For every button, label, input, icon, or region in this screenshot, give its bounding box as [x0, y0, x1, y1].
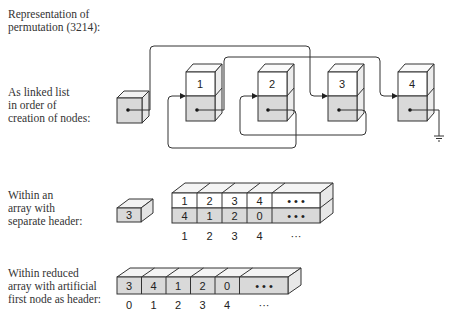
reduced-value-2: 1 — [175, 280, 181, 292]
pointer-1-to-4 — [197, 57, 397, 110]
array-link-1: 4 — [181, 210, 187, 222]
node-3 — [328, 64, 364, 121]
array-index-3: 3 — [231, 230, 237, 242]
reduced-value-0: 3 — [126, 280, 132, 292]
pointer-header-to-3 — [128, 46, 327, 110]
array-index-more: ··· — [291, 230, 302, 242]
separate-header-box — [117, 199, 153, 222]
reduced-index-3: 3 — [199, 299, 205, 311]
node-4-label: 4 — [409, 78, 415, 90]
linked-list — [117, 46, 444, 148]
array-index-4: 4 — [256, 230, 262, 242]
reduced-index-0: 0 — [126, 299, 132, 311]
node-2 — [258, 64, 294, 121]
node-1-label: 1 — [197, 78, 203, 90]
node-3-label: 3 — [339, 78, 345, 90]
node-2-label: 2 — [269, 78, 275, 90]
array-link-2: 1 — [206, 210, 212, 222]
reduced-value-3: 2 — [199, 280, 205, 292]
diagram-canvas: 1 2 3 4 3 1 2 3 4 • • • 4 1 2 0 • • • 1 … — [0, 0, 459, 326]
reduced-index-1: 1 — [150, 299, 156, 311]
node-4 — [398, 64, 434, 121]
array-link-more: • • • — [287, 210, 305, 222]
array-value-more: • • • — [287, 195, 305, 207]
array-reduced — [117, 268, 301, 294]
array-value-1: 1 — [181, 195, 187, 207]
array-link-3: 2 — [231, 210, 237, 222]
reduced-index-more: ··· — [259, 299, 270, 311]
array-value-4: 4 — [256, 195, 262, 207]
node-1 — [186, 64, 222, 121]
array-value-3: 3 — [231, 195, 237, 207]
array-two-row — [172, 183, 333, 223]
reduced-value-more: • • • — [255, 280, 273, 292]
array-index-2: 2 — [206, 230, 212, 242]
ground-icon — [434, 136, 444, 141]
reduced-index-4: 4 — [224, 299, 230, 311]
array-index-1: 1 — [181, 230, 187, 242]
reduced-value-4: 0 — [224, 280, 230, 292]
header-value: 3 — [126, 209, 132, 221]
reduced-index-2: 2 — [175, 299, 181, 311]
array-value-2: 2 — [206, 195, 212, 207]
array-link-4: 0 — [256, 210, 262, 222]
reduced-value-1: 4 — [150, 280, 156, 292]
header-node — [117, 91, 149, 123]
